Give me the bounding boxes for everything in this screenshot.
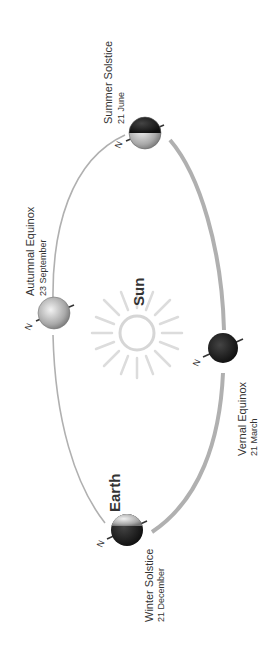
north-marker-winter: N	[95, 539, 107, 549]
orbit-path-thick	[152, 140, 224, 532]
earth-vernal-equinox-icon	[203, 333, 243, 363]
north-marker-vernal: N	[191, 358, 203, 368]
vernal-equinox-label: Vernal Equinox	[236, 382, 248, 456]
north-marker-autumnal: N	[23, 322, 35, 332]
vernal-equinox-date: 21 March	[249, 418, 259, 456]
autumnal-equinox-label: Autumnal Equinox	[24, 206, 36, 296]
winter-solstice-label: Winter Solstice	[143, 549, 155, 622]
earth-label: Earth	[106, 474, 123, 512]
north-marker-summer: N	[113, 140, 125, 150]
winter-solstice-date: 21 December	[156, 568, 166, 622]
earth-autumnal-equinox-icon	[36, 297, 74, 329]
earth-summer-solstice-icon	[126, 117, 164, 149]
sun-label: Sun	[130, 278, 147, 306]
summer-solstice-label: Summer Solstice	[102, 41, 114, 124]
orbit-diagram: Sun N Summer Solstice 21 June N Autumnal…	[0, 0, 264, 653]
earth-winter-solstice-icon	[107, 514, 147, 546]
summer-solstice-date: 21 June	[116, 92, 126, 124]
orbit-path-thin	[53, 135, 125, 523]
autumnal-equinox-date: 23 September	[38, 239, 48, 296]
